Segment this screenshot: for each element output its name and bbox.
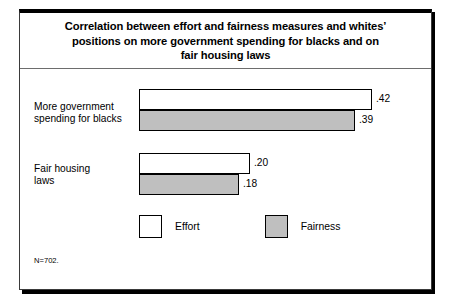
legend-item-fairness: Fairness: [265, 215, 341, 238]
category-label-0-line-2: spending for blacks: [34, 113, 139, 125]
bar-effort-0: [139, 89, 372, 110]
chart-figure: Correlation between effort and fairness …: [19, 9, 432, 290]
bar-value-fairness-1: .18: [243, 178, 257, 189]
chart-title-line-2: positions on more government spending fo…: [36, 34, 415, 49]
bar-effort-1: [139, 153, 250, 174]
chart-footnote: N=702.: [34, 256, 59, 265]
bar-value-effort-1: .20: [254, 157, 268, 168]
category-label-1-line-2: laws: [34, 175, 139, 187]
category-label-0: More government spending for blacks: [34, 101, 139, 126]
figure-bottom-shadow: [22, 290, 435, 294]
legend-label-effort: Effort: [175, 221, 200, 232]
bar-fairness-1: [139, 174, 239, 195]
category-label-0-line-1: More government: [34, 101, 139, 113]
chart-title-line-1: Correlation between effort and fairness …: [36, 19, 415, 34]
plot-area: More government spending for blacks .42 …: [20, 69, 431, 281]
category-label-1: Fair housing laws: [34, 163, 139, 188]
figure-right-shadow: [432, 12, 435, 293]
legend-label-fairness: Fairness: [301, 221, 341, 232]
chart-title: Correlation between effort and fairness …: [20, 13, 431, 69]
legend-swatch-fairness-icon: [265, 215, 288, 238]
bar-value-effort-0: .42: [376, 93, 390, 104]
bar-value-fairness-0: .39: [359, 114, 373, 125]
legend-swatch-effort-icon: [139, 215, 162, 238]
chart-title-line-3: fair housing laws: [36, 48, 415, 63]
legend-item-effort: Effort: [139, 215, 200, 238]
bar-fairness-0: [139, 110, 355, 131]
category-label-1-line-1: Fair housing: [34, 163, 139, 175]
chart-legend: Effort Fairness: [139, 215, 341, 238]
